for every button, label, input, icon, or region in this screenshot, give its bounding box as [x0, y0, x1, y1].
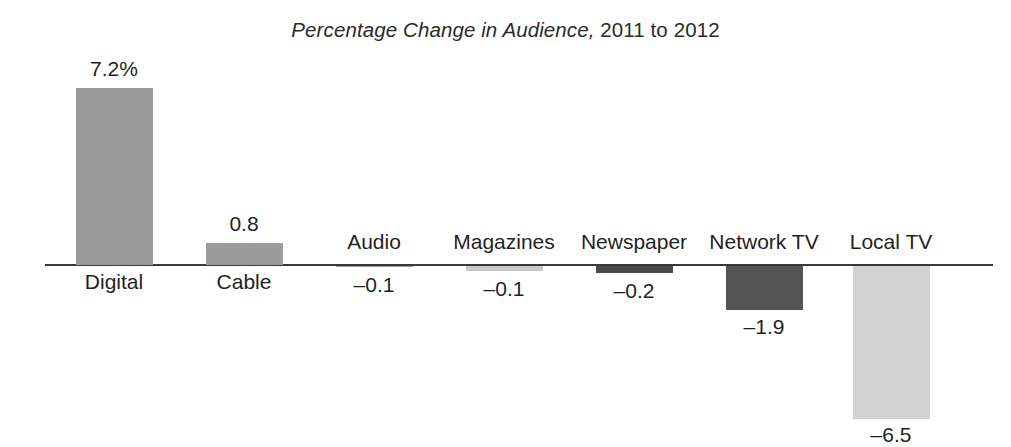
value-label-newspaper: –0.2 [504, 280, 764, 301]
value-label-local-tv: –6.5 [761, 424, 1011, 445]
plot-area: Digital7.2%Cable0.8Audio–0.1Magazines–0.… [0, 0, 1011, 447]
value-label-digital: 7.2% [0, 58, 244, 79]
bar-newspaper[interactable] [596, 266, 673, 273]
bar-audio[interactable] [336, 266, 413, 267]
bar-local-tv[interactable] [853, 266, 930, 419]
bar-digital[interactable] [76, 88, 153, 265]
bar-network-tv[interactable] [726, 266, 803, 310]
category-label-local-tv: Local TV [761, 231, 1011, 252]
chart-root: Percentage Change in Audience, 2011 to 2… [0, 0, 1011, 447]
bar-magazines[interactable] [466, 266, 543, 271]
